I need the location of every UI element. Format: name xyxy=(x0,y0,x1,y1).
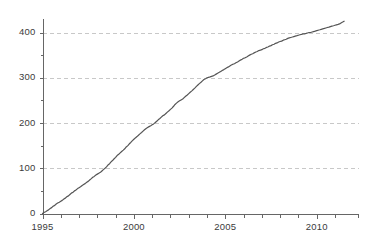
data-series-group xyxy=(43,21,345,213)
y-axis-tick-label: 300 xyxy=(19,71,35,82)
x-axis-tick-label: 1995 xyxy=(23,221,63,232)
chart-plot-area xyxy=(0,0,384,247)
line-chart: 0100200300400 1995200020052010 xyxy=(0,0,384,247)
axes xyxy=(40,19,359,219)
y-axis-tick-label: 0 xyxy=(30,207,35,218)
series-line-cumulative-total xyxy=(43,21,345,213)
x-axis-tick-label: 2000 xyxy=(114,221,154,232)
x-axis-tick-label: 2010 xyxy=(297,221,337,232)
y-axis-tick-label: 100 xyxy=(19,162,35,173)
y-axis-tick-label: 400 xyxy=(19,26,35,37)
y-axis-ticks xyxy=(40,34,44,215)
gridlines xyxy=(43,34,359,169)
x-axis-ticks xyxy=(44,215,359,219)
x-axis-tick-label: 2005 xyxy=(205,221,245,232)
y-axis-tick-label: 200 xyxy=(19,117,35,128)
